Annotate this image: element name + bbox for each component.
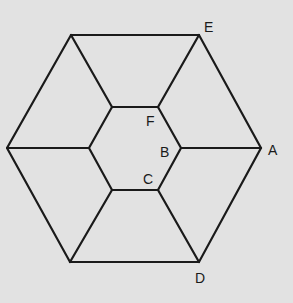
spoke-line [158, 35, 199, 107]
label-b: B [160, 145, 169, 159]
label-f: F [146, 114, 155, 128]
label-d: D [195, 271, 205, 285]
spoke-line [70, 190, 112, 262]
diagram-lines [0, 0, 293, 303]
label-e: E [204, 20, 213, 34]
spoke-line [71, 35, 112, 107]
label-c: C [143, 172, 153, 186]
spoke-line [158, 190, 199, 262]
label-a: A [268, 143, 277, 157]
hexagon-diagram: E A D F B C [0, 0, 293, 303]
